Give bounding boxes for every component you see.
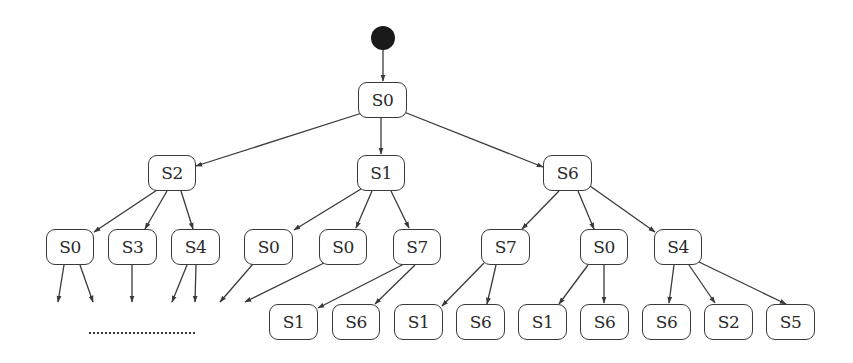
transition-arrow xyxy=(669,265,674,303)
transition-arrow xyxy=(689,265,715,303)
transition-arrow xyxy=(195,265,196,302)
transition-arrow xyxy=(391,191,409,228)
state-node-s1: S1 xyxy=(269,304,318,340)
transition-arrow xyxy=(522,191,559,229)
ellipsis-continuation xyxy=(89,332,195,334)
transition-arrow xyxy=(487,265,496,304)
state-tree-diagram: S0S2S1S6S0S3S4S0S0S7S7S0S4S1S6S1S6S1S6S6… xyxy=(0,0,853,363)
transition-arrow xyxy=(80,265,93,302)
transition-arrow xyxy=(356,191,372,228)
state-node-s6: S6 xyxy=(332,304,380,340)
state-node-s7: S7 xyxy=(393,229,441,265)
state-node-s1: S1 xyxy=(518,304,567,340)
transition-arrow xyxy=(145,191,167,229)
transition-arrow xyxy=(220,264,253,302)
state-node-s6: S6 xyxy=(642,304,691,340)
transition-arrow xyxy=(172,265,187,302)
transition-arrow xyxy=(578,191,594,229)
initial-state-dot xyxy=(371,26,395,50)
state-node-s4: S4 xyxy=(171,229,220,265)
transition-arrow xyxy=(375,265,415,304)
state-node-s0: S0 xyxy=(319,229,367,265)
transition-arrow xyxy=(196,113,362,166)
transition-arrow xyxy=(294,189,361,230)
state-node-s3: S3 xyxy=(108,229,157,265)
state-node-s4: S4 xyxy=(654,229,702,265)
transition-arrow xyxy=(245,263,324,302)
state-node-s7: S7 xyxy=(481,229,530,265)
transition-arrow xyxy=(559,265,588,304)
state-node-s6: S6 xyxy=(580,304,629,340)
transition-arrow xyxy=(318,264,404,308)
state-node-s2: S2 xyxy=(148,155,196,191)
state-node-s0: S0 xyxy=(580,229,628,265)
transition-arrow xyxy=(181,191,193,229)
transition-arrow xyxy=(442,263,484,306)
state-node-s1: S1 xyxy=(357,155,405,191)
state-node-s2: S2 xyxy=(704,304,753,340)
state-node-s0: S0 xyxy=(244,229,293,265)
state-node-s6: S6 xyxy=(543,155,592,191)
state-node-s0: S0 xyxy=(358,82,407,118)
state-node-s6: S6 xyxy=(456,304,505,340)
transition-arrow xyxy=(590,186,655,232)
state-node-s0: S0 xyxy=(46,229,94,265)
state-node-s1: S1 xyxy=(394,304,443,340)
state-node-s5: S5 xyxy=(766,304,815,340)
transition-arrow xyxy=(404,112,543,167)
transition-arrow xyxy=(58,265,64,302)
